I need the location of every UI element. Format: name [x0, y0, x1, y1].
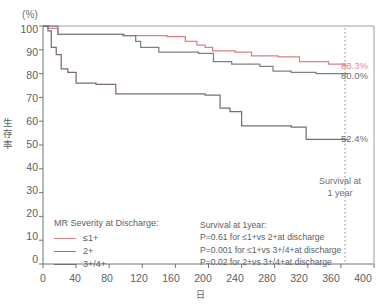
one-year-marker-line2: 1 year	[296, 187, 384, 199]
legend-label-mr-2plus: 2+	[83, 247, 93, 256]
statistics-block: Survival at 1year: P=0.61 for ≤1+vs 2+at…	[200, 219, 341, 269]
legend-swatch-mr-3plus4plus	[54, 264, 76, 265]
legend-label-mr-1plus: ≤1+	[83, 234, 98, 243]
legend-swatch-mr-2plus	[54, 251, 76, 252]
legend-item-mr-1plus[interactable]: ≤1+	[54, 232, 159, 245]
legend-label-mr-3plus4plus: 3+/4+	[83, 260, 106, 269]
kaplan-meier-survival-chart: (%) 生存率 日 0 10 20 30 40 50 60 70 80 90 1…	[0, 0, 391, 307]
legend-swatch-mr-1plus	[54, 238, 76, 239]
statistics-pvalue-line: P=0.61 for ≤1+vs 2+at discharge	[200, 231, 341, 243]
endpoint-label-mr-3plus4plus: 52.4%	[341, 133, 368, 144]
statistics-pvalue-line: P=0.02 for 2+vs 3+/4+at discharge	[200, 256, 341, 268]
one-year-marker-line1: Survival at	[296, 175, 384, 187]
statistics-pvalue-line: P=0.001 for ≤1+vs 3+/4+at discharge	[200, 244, 341, 256]
legend-item-mr-3plus4plus[interactable]: 3+/4+	[54, 258, 159, 271]
endpoint-label-mr-2plus: 80.0%	[341, 70, 368, 81]
statistics-title: Survival at 1year:	[200, 219, 341, 231]
legend-title: MR Severity at Discharge:	[54, 219, 159, 228]
legend-item-mr-2plus[interactable]: 2+	[54, 245, 159, 258]
one-year-marker-annotation: Survival at 1 year	[296, 175, 384, 199]
legend: MR Severity at Discharge: ≤1+ 2+ 3+/4+	[54, 219, 159, 271]
